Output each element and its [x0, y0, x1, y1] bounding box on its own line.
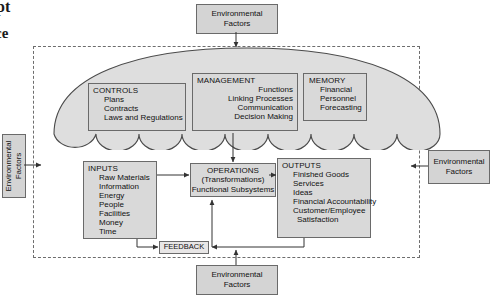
environmental-factors-left: Environmental Factors — [2, 134, 26, 198]
feedback-label: FEEDBACK — [164, 243, 204, 251]
memory-list: Financial Personnel Forecasting — [309, 86, 366, 113]
env-right-line1: Environmental — [433, 157, 484, 166]
outputs-list: Finished Goods Services Ideas Financial … — [282, 171, 370, 225]
env-top-line1: Environmental — [211, 9, 262, 18]
inputs-list: Raw Materials Information Energy People … — [88, 174, 156, 237]
env-bottom-text: Environmental Factors — [211, 270, 262, 290]
environmental-factors-right: Environmental Factors — [428, 150, 490, 184]
outputs-item: Satisfaction — [282, 216, 370, 225]
operations-title: OPERATIONS — [207, 166, 259, 175]
management-item: Decision Making — [197, 113, 293, 122]
env-right-line2: Factors — [446, 167, 473, 176]
env-bottom-line2: Factors — [224, 280, 251, 289]
environmental-factors-top: Environmental Factors — [196, 4, 278, 34]
inputs-item: Time — [88, 228, 156, 237]
controls-list: Plans Contracts Laws and Regulations — [93, 96, 185, 123]
diagram-canvas: pt ce Environmental Factors Environmenta… — [0, 0, 490, 298]
outputs-box: OUTPUTS Finished Goods Services Ideas Fi… — [277, 158, 371, 238]
management-box: MANAGEMENT Functions Linking Processes C… — [192, 73, 298, 131]
env-bottom-line1: Environmental — [211, 270, 262, 279]
env-top-text: Environmental Factors — [211, 9, 262, 29]
env-left-text: Environmental Factors — [4, 140, 24, 191]
env-right-text: Environmental Factors — [433, 157, 484, 177]
memory-item: Forecasting — [309, 104, 366, 113]
inputs-box: INPUTS Raw Materials Information Energy … — [83, 161, 157, 239]
page-title-fragment-top: pt — [0, 0, 10, 16]
page-title-fragment-bottom: ce — [0, 25, 8, 42]
controls-box: CONTROLS Plans Contracts Laws and Regula… — [88, 83, 186, 131]
environmental-factors-bottom: Environmental Factors — [196, 265, 278, 295]
controls-item: Laws and Regulations — [93, 114, 185, 123]
feedback-box: FEEDBACK — [159, 241, 209, 254]
operations-box: OPERATIONS (Transformations) Functional … — [190, 163, 276, 197]
memory-box: MEMORY Financial Personnel Forecasting — [303, 73, 367, 121]
env-left-line2: Factors — [14, 153, 23, 180]
management-list: Functions Linking Processes Communicatio… — [197, 86, 293, 122]
operations-detail: Functional Subsystems — [192, 185, 275, 194]
env-left-line1: Environmental — [4, 140, 13, 191]
operations-subtitle: (Transformations) — [202, 175, 265, 184]
env-top-line2: Factors — [224, 19, 251, 28]
